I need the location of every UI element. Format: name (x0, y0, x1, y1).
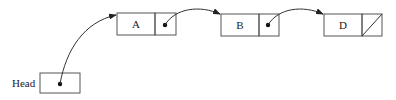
linked-list-diagram: Head A B D (0, 0, 396, 100)
head-label: Head (12, 77, 36, 89)
list-node-a: A (117, 13, 176, 35)
list-node-d: D (324, 14, 382, 36)
node-d-label: D (339, 19, 347, 31)
head-pointer: Head (12, 73, 80, 93)
arrow-b-to-d (268, 9, 323, 25)
node-b-label: B (236, 19, 243, 31)
arrow-head-to-a (60, 15, 116, 84)
node-a-label: A (132, 18, 140, 30)
arrow-a-to-b (165, 9, 220, 25)
list-node-b: B (221, 14, 279, 36)
null-pointer-slash-icon (362, 14, 382, 36)
